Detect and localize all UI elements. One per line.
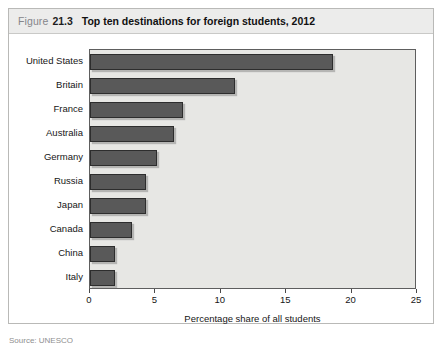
category-label-united-states: United States xyxy=(26,53,83,69)
bar-britain xyxy=(90,78,235,94)
x-tick xyxy=(416,289,417,293)
figure-card: Figure 21.3 Top ten destinations for for… xyxy=(8,8,434,324)
bar-japan xyxy=(90,198,146,214)
bar-france xyxy=(90,102,183,118)
bar-united-states xyxy=(90,54,333,70)
bar-row xyxy=(90,174,417,190)
x-tick-label: 20 xyxy=(345,294,356,305)
bar-canada xyxy=(90,222,132,238)
category-label-canada: Canada xyxy=(50,221,83,237)
x-tick-label: 0 xyxy=(86,294,91,305)
bar-row xyxy=(90,198,417,214)
bar-row xyxy=(90,270,417,286)
bar-row xyxy=(90,78,417,94)
figure-header: Figure 21.3 Top ten destinations for for… xyxy=(9,9,433,34)
x-tick xyxy=(154,289,155,293)
category-label-china: China xyxy=(58,245,83,261)
bar-row xyxy=(90,150,417,166)
bar-italy xyxy=(90,270,115,286)
bar-germany xyxy=(90,150,157,166)
bar-russia xyxy=(90,174,146,190)
category-label-germany: Germany xyxy=(44,149,83,165)
x-tick-label: 25 xyxy=(411,294,422,305)
category-label-france: France xyxy=(53,101,83,117)
bar-row xyxy=(90,126,417,142)
category-label-russia: Russia xyxy=(54,173,83,189)
bars-layer xyxy=(90,50,415,288)
category-label-australia: Australia xyxy=(46,125,83,141)
bar-australia xyxy=(90,126,174,142)
figure-label: Figure xyxy=(18,15,48,27)
source-note: Source: UNESCO xyxy=(9,336,73,348)
bar-row xyxy=(90,222,417,238)
category-label-japan: Japan xyxy=(57,197,83,213)
bar-row xyxy=(90,54,417,70)
x-tick-label: 10 xyxy=(215,294,226,305)
x-tick xyxy=(89,289,90,293)
x-tick-label: 5 xyxy=(152,294,157,305)
plot-area xyxy=(89,49,416,289)
chart-body: United StatesBritainFranceAustraliaGerma… xyxy=(9,34,435,324)
bar-china xyxy=(90,246,115,262)
x-axis-title: Percentage share of all students xyxy=(89,313,416,324)
x-tick xyxy=(220,289,221,293)
bar-row xyxy=(90,102,417,118)
x-tick xyxy=(285,289,286,293)
category-axis: United StatesBritainFranceAustraliaGerma… xyxy=(9,49,87,289)
x-tick xyxy=(351,289,352,293)
figure-number: 21.3 xyxy=(52,15,72,27)
x-axis: 0510152025 xyxy=(89,289,416,311)
bar-row xyxy=(90,246,417,262)
x-tick-label: 15 xyxy=(280,294,291,305)
category-label-italy: Italy xyxy=(66,269,83,285)
figure-title: Top ten destinations for foreign student… xyxy=(82,15,315,27)
category-label-britain: Britain xyxy=(56,77,83,93)
